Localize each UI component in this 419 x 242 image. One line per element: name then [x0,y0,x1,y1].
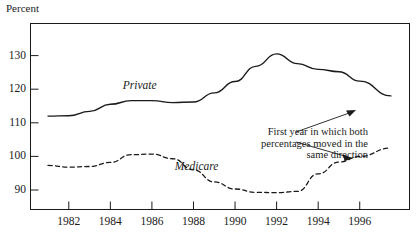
y-axis-tick-label: 100 [0,149,26,161]
y-axis-tick-label: 120 [0,82,26,94]
chart-canvas [0,0,419,242]
y-axis-tick-label: 110 [0,116,26,128]
x-axis-tick-label: 1990 [215,215,255,227]
series-label-private: Private [123,79,157,91]
x-axis-tick-label: 1988 [173,215,213,227]
annotation-line: same direction [232,149,368,161]
x-axis-tick-label: 1982 [49,215,89,227]
x-axis-tick-label: 1994 [298,215,338,227]
series-line-private [48,54,391,116]
annotation-line: percentages moved in the [232,138,368,150]
annotation-text: First year in which bothpercentages move… [232,126,368,161]
x-axis-tick-label: 1984 [90,215,130,227]
x-axis-tick-label: 1992 [257,215,297,227]
x-axis-ticks [69,202,360,210]
y-axis-tick-label: 130 [0,49,26,61]
data-series-group [48,54,391,193]
series-label-medicare: Medicare [175,160,219,172]
y-axis-tick-label: 90 [0,183,26,195]
annotation-line: First year in which both [232,126,368,138]
x-axis-tick-label: 1996 [340,215,380,227]
chart-figure: Percent 90100110120130 19821984198619881… [0,0,419,242]
x-axis-tick-label: 1986 [132,215,172,227]
plot-frame [31,24,410,210]
y-axis-ticks [31,56,39,190]
